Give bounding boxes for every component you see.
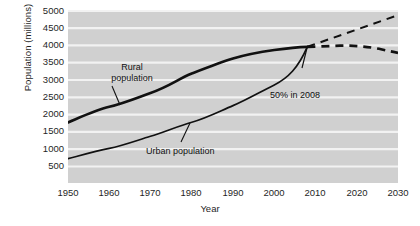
x-tick-1950: 1950 [48, 188, 88, 198]
y-tick-3000: 3000 [26, 75, 64, 85]
population-line-chart: Population (millions) 5000 4500 4000 350… [0, 0, 420, 226]
crossover-annotation: 50% in 2008 [270, 90, 320, 101]
rural-population-annotation: Rural population [102, 62, 162, 83]
y-tick-2500: 2500 [26, 92, 64, 102]
y-tick-1500: 1500 [26, 126, 64, 136]
y-tick-4500: 4500 [26, 23, 64, 33]
x-tick-2000: 2000 [254, 188, 294, 198]
x-tick-1960: 1960 [89, 188, 129, 198]
rural-annotation-line2: population [102, 73, 162, 84]
x-tick-2010: 2010 [295, 188, 335, 198]
y-tick-3500: 3500 [26, 57, 64, 67]
plot-panel [68, 10, 398, 183]
x-tick-1990: 1990 [213, 188, 253, 198]
y-tick-500: 500 [26, 161, 64, 171]
y-tick-4000: 4000 [26, 40, 64, 50]
y-tick-2000: 2000 [26, 109, 64, 119]
x-tick-1970: 1970 [130, 188, 170, 198]
plot-svg [68, 10, 398, 183]
y-tick-5000: 5000 [26, 6, 64, 16]
x-tick-1980: 1980 [171, 188, 211, 198]
y-tick-1000: 1000 [26, 144, 64, 154]
x-tick-2030: 2030 [378, 188, 418, 198]
rural-annotation-line1: Rural [102, 62, 162, 73]
urban-population-annotation: Urban population [146, 146, 215, 157]
x-tick-2020: 2020 [337, 188, 377, 198]
x-axis-label: Year [0, 203, 420, 214]
